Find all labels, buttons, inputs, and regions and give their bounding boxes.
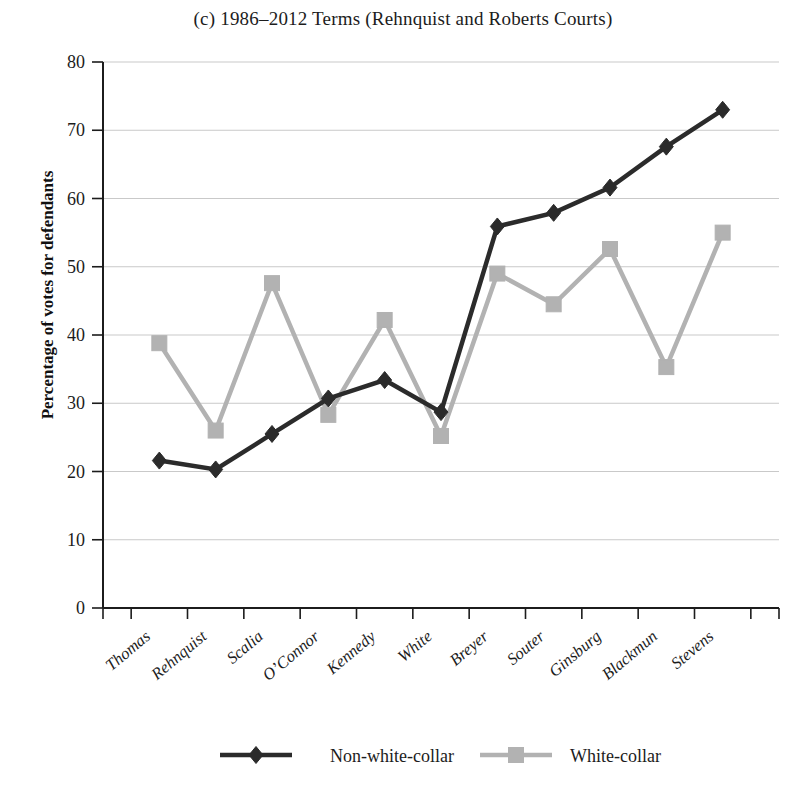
data-point-marker [265, 276, 280, 291]
data-point-marker [265, 425, 279, 442]
y-tick-label: 0 [76, 598, 85, 618]
data-point-marker [659, 360, 674, 375]
line-chart-plot: 01020304050607080 ThomasRehnquistScaliaO… [0, 0, 806, 785]
data-point-marker [152, 336, 167, 351]
legend-marker-2 [509, 748, 524, 763]
x-tick-label: White [394, 627, 436, 666]
data-series-group [152, 101, 730, 478]
legend-marker-1 [249, 747, 263, 764]
legend-label: Non-white-collar [330, 746, 454, 766]
data-point-marker [603, 242, 618, 257]
y-axis-ticks-group: 01020304050607080 [67, 52, 103, 618]
data-point-marker [490, 218, 504, 235]
x-tick-label: Rehnquist [147, 626, 211, 684]
data-point-marker [152, 452, 166, 469]
data-point-marker [490, 266, 505, 281]
x-tick-label: Souter [503, 626, 549, 669]
y-tick-label: 80 [67, 52, 85, 72]
x-tick-label: Blackmun [598, 627, 661, 684]
x-tick-label: Thomas [102, 627, 154, 675]
data-point-marker [208, 423, 223, 438]
x-tick-label: Ginsburg [545, 627, 605, 681]
x-tick-label: Scalia [223, 627, 267, 668]
y-tick-label: 60 [67, 189, 85, 209]
x-axis-labels-group: ThomasRehnquistScaliaO’ConnorKennedyWhit… [102, 626, 718, 685]
x-tick-label: Stevens [667, 627, 717, 673]
chart-page: (c) 1986–2012 Terms (Rehnquist and Rober… [0, 0, 806, 785]
data-point-marker [378, 372, 392, 389]
y-tick-label: 40 [67, 325, 85, 345]
data-point-marker [547, 204, 561, 221]
data-point-marker [377, 312, 392, 327]
y-tick-label: 30 [67, 393, 85, 413]
data-point-marker [321, 407, 336, 422]
chart-legend: Non-white-collarWhite-collar [220, 746, 661, 766]
y-tick-label: 10 [67, 530, 85, 550]
data-point-marker [716, 101, 730, 118]
data-point-marker [209, 461, 223, 478]
y-tick-label: 20 [67, 462, 85, 482]
x-tick-label: Kennedy [322, 626, 380, 679]
x-tick-label: Breyer [446, 626, 493, 669]
data-point-marker [546, 297, 561, 312]
y-tick-label: 50 [67, 257, 85, 277]
y-tick-label: 70 [67, 120, 85, 140]
data-point-marker [715, 225, 730, 240]
data-point-marker [434, 429, 449, 444]
legend-label: White-collar [570, 746, 661, 766]
x-tick-label: O’Connor [259, 626, 324, 685]
x-axis-ticks-group [103, 608, 779, 619]
